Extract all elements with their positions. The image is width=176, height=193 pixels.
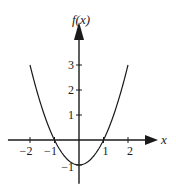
x-tick-label: −1 <box>44 144 57 158</box>
x-axis-arrow-icon <box>145 135 158 145</box>
y-tick-label: 3 <box>68 58 74 72</box>
function-graph: −2−112−1123xf(x) <box>0 0 176 193</box>
y-axis-label: f(x) <box>72 12 90 27</box>
y-tick-label: 2 <box>68 83 74 97</box>
y-tick-label: 1 <box>68 108 74 122</box>
x-tick-label: 2 <box>127 144 133 158</box>
y-tick-label: −1 <box>61 160 74 174</box>
x-tick-label: 1 <box>103 144 109 158</box>
x-tick-label: −2 <box>20 144 33 158</box>
x-axis-label: x <box>160 132 167 147</box>
